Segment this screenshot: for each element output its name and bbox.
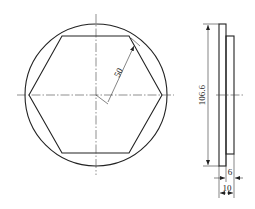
height-label: 106.6 (197, 84, 207, 105)
side-view: 106.6 6 10 (197, 24, 243, 198)
radius-leader (96, 95, 108, 104)
hexagon (29, 36, 162, 153)
radius-label: 50 (112, 66, 125, 79)
thickness-label: 10 (223, 183, 233, 193)
front-view: 50 (17, 14, 174, 175)
technical-drawing: 50 106.6 6 10 (0, 0, 255, 209)
step-label: 6 (228, 167, 233, 177)
